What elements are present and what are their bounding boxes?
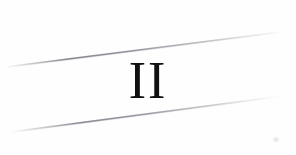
corner-smudge-artifact [272, 136, 280, 143]
scanned-page: II [0, 0, 296, 155]
page-numeral: II [0, 55, 296, 107]
